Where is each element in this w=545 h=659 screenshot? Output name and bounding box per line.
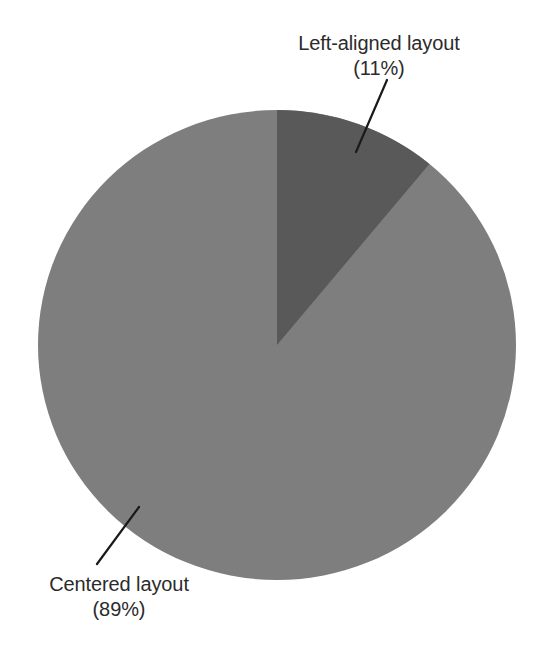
callout-centered-name: Centered layout	[24, 572, 214, 597]
callout-centered-percent: (89%)	[24, 597, 214, 622]
callout-left-aligned-percent: (11%)	[296, 56, 462, 81]
callout-left-aligned-name: Left-aligned layout	[296, 31, 462, 56]
callout-centered-layout: Centered layout (89%)	[24, 572, 214, 622]
pie-chart-figure: Left-aligned layout (11%) Centered layou…	[0, 0, 545, 659]
pie-chart-canvas	[0, 0, 545, 659]
callout-left-aligned-layout: Left-aligned layout (11%)	[296, 31, 462, 81]
